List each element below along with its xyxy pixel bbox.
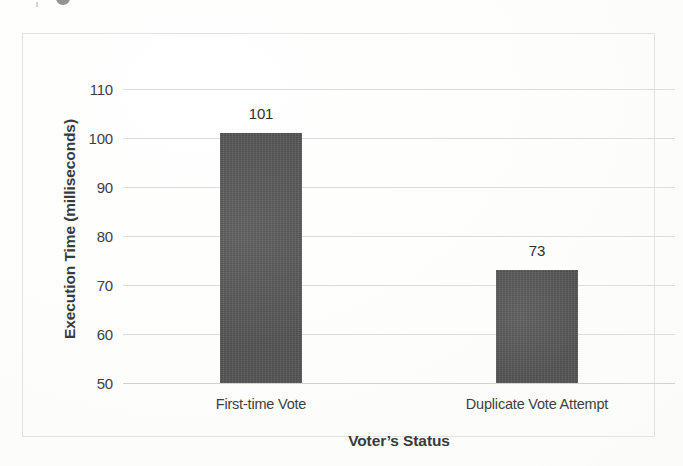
y-tick-label-90: 90 [69,179,113,196]
y-tick-label-50: 50 [69,375,113,392]
caption-glyph-fragment [56,0,70,5]
caption-glyph-fragment-tick [36,2,38,7]
y-tick-label-100: 100 [69,130,113,147]
y-tick-label-110: 110 [69,81,113,98]
category-label: Duplicate Vote Attempt [417,396,657,412]
y-axis-tick-labels: 1101009080706050 [65,89,113,383]
chart-frame: Execution Time (milliseconds) 1101009080… [22,33,655,437]
y-tick-label-80: 80 [69,228,113,245]
x-axis-title: Voter’s Status [123,432,675,450]
y-tick-label-60: 60 [69,326,113,343]
x-axis-category-labels: First-time VoteDuplicate Vote Attempt [123,34,675,434]
category-label: First-time Vote [141,396,381,412]
y-tick-label-70: 70 [69,277,113,294]
